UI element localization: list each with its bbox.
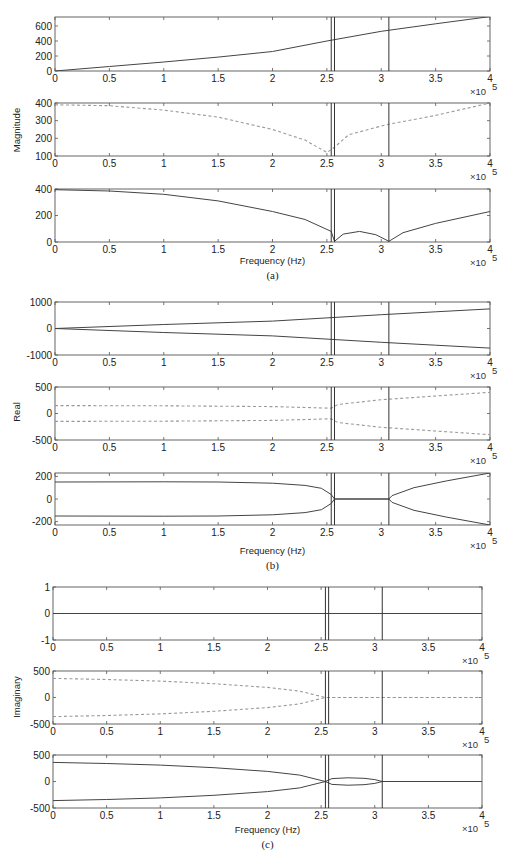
x-tick-label: 2.5 [320,73,334,84]
y-tick-label: -500 [30,719,50,730]
panel-a: 00.511.522.533.54×105020040060000.511.52… [11,17,497,282]
x-tick-label: 2 [270,158,276,169]
y-axis-label: Imaginary [11,676,22,718]
x-tick-label: 2.5 [320,357,334,368]
x-tick-label: 0.5 [102,73,116,84]
x-multiplier-label: ×10 [462,655,478,666]
series-mode2-neg [53,698,482,717]
y-tick-label: 200 [35,51,52,62]
x-tick-label: 1.5 [207,726,221,737]
x-tick-label: 3 [372,726,378,737]
x-multiplier-exponent: 5 [492,252,497,263]
x-tick-label: 3 [378,527,384,538]
axes-frame [55,302,490,355]
y-tick-label: -1000 [26,350,52,361]
x-tick-label: 0 [52,73,58,84]
x-tick-label: 2.5 [314,726,328,737]
x-tick-label: 3 [378,357,384,368]
x-tick-label: 0 [52,357,58,368]
y-tick-label: 500 [33,666,50,677]
x-tick-label: 1.5 [211,442,225,453]
x-multiplier-label: ×10 [470,370,486,381]
y-tick-label: 0 [46,237,52,248]
y-tick-label: 0 [46,323,52,334]
subplot-a2: 00.511.522.533.54×105100200300400 [35,98,497,183]
x-multiplier-label: ×10 [470,540,486,551]
x-tick-label: 3 [378,244,384,255]
series-mode2-pos [55,392,490,408]
x-tick-label: 3.5 [429,73,443,84]
x-tick-label: 3.5 [421,810,435,821]
y-tick-label: -500 [30,803,50,814]
x-tick-label: 3 [378,158,384,169]
axes-frame [55,387,490,440]
x-axis-label: Frequency (Hz) [235,824,300,835]
y-axis-label: Magnitude [11,108,22,152]
y-tick-label: 0 [44,692,50,703]
x-multiplier-exponent: 5 [492,365,497,376]
series-mode3-pos [53,762,482,781]
y-tick-label: 1 [44,582,50,593]
x-tick-label: 2.5 [320,527,334,538]
x-multiplier-exponent: 5 [484,650,489,661]
x-tick-label: 0 [50,810,56,821]
figure-canvas: 00.511.522.533.54×105020040060000.511.52… [0,0,505,857]
y-tick-label: 400 [35,36,52,47]
x-tick-label: 1.5 [211,73,225,84]
series-mode1-pos [55,309,490,329]
x-tick-label: 0.5 [102,244,116,255]
series-mode2-pos [53,678,482,697]
y-tick-label: 200 [35,471,52,482]
y-axis-label: Real [11,402,22,422]
x-tick-label: 2 [270,357,276,368]
x-tick-label: 0.5 [102,357,116,368]
x-multiplier-exponent: 5 [484,818,489,829]
x-multiplier-exponent: 5 [484,734,489,745]
x-tick-label: 1 [157,810,163,821]
subplot-c3: 00.511.522.533.54×105-5000500 [30,750,489,835]
x-multiplier-label: ×10 [470,171,486,182]
x-tick-label: 1 [161,73,167,84]
axes-frame [55,103,490,156]
y-tick-label: 400 [35,98,52,109]
x-tick-label: 1 [161,442,167,453]
x-multiplier-label: ×10 [470,86,486,97]
y-tick-label: 0 [46,408,52,419]
series-mode3-neg [55,499,490,525]
x-tick-label: 2 [270,442,276,453]
x-tick-label: 0 [52,158,58,169]
x-tick-label: 2.5 [314,810,328,821]
x-tick-label: 0 [52,442,58,453]
x-tick-label: 2 [265,642,271,653]
x-multiplier-label: ×10 [470,257,486,268]
y-tick-label: 0 [46,66,52,77]
x-axis-label: Frequency (Hz) [240,255,305,266]
y-tick-label: 1000 [30,297,53,308]
x-tick-label: 1 [157,726,163,737]
series-mode2 [55,103,490,153]
x-tick-label: 2 [265,810,271,821]
y-tick-label: -200 [32,516,52,527]
subplot-c2: 00.511.522.533.54×105-5000500 [30,666,489,751]
x-tick-label: 0 [52,244,58,255]
x-tick-label: 2.5 [314,642,328,653]
x-tick-label: 1.5 [207,642,221,653]
x-tick-label: 3 [378,73,384,84]
x-tick-label: 3.5 [429,357,443,368]
x-tick-label: 3.5 [429,442,443,453]
x-tick-label: 0.5 [100,642,114,653]
x-tick-label: 0.5 [102,158,116,169]
x-tick-label: 0.5 [100,810,114,821]
series-mode2-neg [55,419,490,435]
x-tick-label: 0.5 [102,527,116,538]
x-multiplier-label: ×10 [462,739,478,750]
x-tick-label: 0 [52,527,58,538]
x-multiplier-label: ×10 [462,823,478,834]
y-tick-label: 400 [35,184,52,195]
subplot-c1: 00.511.522.533.54×105-101 [41,582,489,667]
y-tick-label: 0 [46,494,52,505]
x-tick-label: 3.5 [421,726,435,737]
panel-b: 00.511.522.533.54×105-10000100000.511.52… [11,297,497,573]
x-tick-label: 2 [270,73,276,84]
x-tick-label: 2.5 [320,442,334,453]
